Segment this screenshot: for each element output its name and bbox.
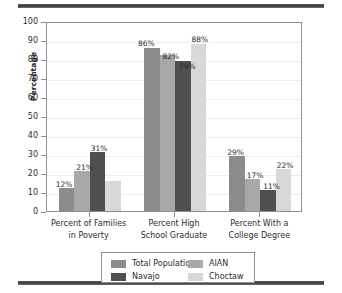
y-axis-tick-label: 10: [28, 188, 38, 198]
x-axis-tick-mark: [174, 212, 175, 217]
y-axis-tick-label: 100: [23, 17, 38, 27]
legend-color-swatch: [188, 260, 203, 268]
category-label-line: Percent With a: [210, 218, 308, 230]
legend-label: Navajo: [132, 272, 160, 281]
legend-color-swatch: [111, 260, 126, 268]
bar: [175, 61, 191, 211]
y-axis-tick-label: 90: [28, 36, 38, 46]
bar-value-label: 11%: [263, 182, 280, 191]
x-axis-tick-mark: [89, 212, 90, 217]
bar-value-label: 88%: [192, 35, 209, 44]
bar-value-label: 12%: [56, 180, 73, 189]
legend-item: Total Population: [111, 258, 195, 269]
y-axis-tick: 40: [0, 131, 46, 141]
bar: [160, 55, 176, 211]
y-axis-tick-label: 40: [28, 131, 38, 141]
bar: [229, 156, 245, 211]
y-axis-tick-label: 0: [33, 207, 38, 217]
category-label-line: School Graduate: [125, 230, 223, 242]
bar-value-label: 31%: [91, 144, 108, 153]
x-axis-category-label: Percent With aCollege Degree: [210, 218, 308, 241]
bar-value-label: 17%: [247, 171, 264, 180]
plot-area: 12%21%31%86%82%79%88%29%17%11%22%: [46, 22, 302, 212]
y-axis-tick: 0: [0, 207, 46, 217]
y-axis-tick-label: 20: [28, 169, 38, 179]
gridline: [47, 42, 301, 43]
chart-legend: Total PopulationAIANNavajoChoctaw: [101, 252, 255, 283]
y-axis-tick: 10: [0, 188, 46, 198]
y-axis-tick-label: 50: [28, 112, 38, 122]
bar: [74, 171, 90, 211]
bar-chart-figure: Percentage 0102030405060708090100 12%21%…: [0, 12, 342, 282]
category-label-line: Percent of Families: [40, 218, 138, 230]
y-axis-tick: 20: [0, 169, 46, 179]
bar-value-label: 22%: [277, 161, 294, 170]
legend-item: Navajo: [111, 271, 160, 282]
bar-value-label: 86%: [138, 39, 155, 48]
category-label-line: Percent High: [125, 218, 223, 230]
y-axis-tick: 50: [0, 112, 46, 122]
bar: [105, 181, 121, 211]
y-axis-tick: 80: [0, 55, 46, 65]
y-axis-tick: 60: [0, 93, 46, 103]
y-axis-tick-label: 60: [28, 93, 38, 103]
bar: [59, 188, 75, 211]
y-axis-tick-label: 80: [28, 55, 38, 65]
bar-value-label: 21%: [76, 163, 93, 172]
x-axis-tick-mark: [259, 212, 260, 217]
legend-color-swatch: [111, 273, 126, 281]
y-axis-tick: 100: [0, 17, 46, 27]
bar-value-label: 79%: [179, 62, 196, 71]
category-label-line: in Poverty: [40, 230, 138, 242]
y-axis-tick-label: 30: [28, 150, 38, 160]
legend-label: AIAN: [209, 259, 228, 268]
x-axis-category-label: Percent of Familiesin Poverty: [40, 218, 138, 241]
bar: [90, 152, 106, 211]
legend-color-swatch: [188, 273, 203, 281]
y-axis-tick-label: 70: [28, 74, 38, 84]
bar: [260, 190, 276, 211]
bar: [245, 179, 261, 211]
y-axis-tick: 70: [0, 74, 46, 84]
legend-label: Choctaw: [209, 272, 244, 281]
category-label-line: College Degree: [210, 230, 308, 242]
y-axis-tick: 30: [0, 150, 46, 160]
bar: [144, 48, 160, 211]
legend-item: Choctaw: [188, 271, 244, 282]
bar-value-label: 82%: [163, 52, 180, 61]
top-divider-rule: [18, 4, 324, 8]
x-axis-category-label: Percent HighSchool Graduate: [125, 218, 223, 241]
y-axis-tick: 90: [0, 36, 46, 46]
bar-value-label: 29%: [227, 148, 244, 157]
legend-item: AIAN: [188, 258, 228, 269]
legend-label: Total Population: [132, 259, 195, 268]
